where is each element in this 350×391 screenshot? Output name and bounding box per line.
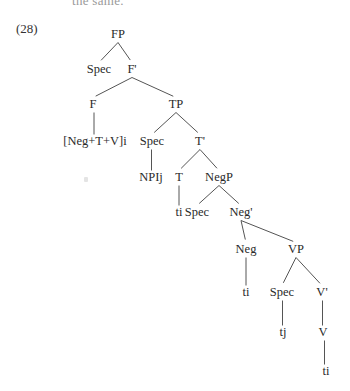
branch-Negbar-Neg bbox=[241, 221, 245, 240]
branch-Negbar-VP bbox=[241, 221, 293, 242]
node-TP: TP bbox=[169, 97, 184, 111]
tree-nodes: FPSpecF'FTP[Neg+T+V]iSpecT'NPIjTNegPtiSp… bbox=[63, 27, 330, 378]
node-V: V bbox=[318, 325, 327, 339]
node-NPIj: NPIj bbox=[139, 170, 163, 184]
branch-Fbar-F bbox=[96, 78, 132, 97]
node-Tbar: T' bbox=[195, 134, 205, 148]
branch-VP-Vbar bbox=[296, 258, 320, 284]
node-tj: tj bbox=[280, 325, 287, 339]
node-Spec1: Spec bbox=[87, 62, 112, 76]
node-NegTV: [Neg+T+V]i bbox=[63, 134, 127, 148]
branch-FP-Spec1 bbox=[101, 43, 118, 61]
node-Spec2: Spec bbox=[140, 134, 165, 148]
node-VP: VP bbox=[288, 242, 304, 256]
syntax-tree-diagram: FPSpecF'FTP[Neg+T+V]iSpecT'NPIjTNegPtiSp… bbox=[0, 0, 350, 391]
branch-Tbar-T bbox=[181, 150, 200, 169]
branch-NegP-Spec3 bbox=[199, 186, 219, 204]
node-T: T bbox=[175, 170, 183, 184]
branch-VP-Spec4 bbox=[283, 258, 296, 283]
node-FP: FP bbox=[111, 27, 125, 41]
node-ti3: ti bbox=[323, 364, 330, 378]
node-Fbar: F' bbox=[127, 62, 136, 76]
branch-TP-Tbar bbox=[176, 113, 198, 133]
node-Spec4: Spec bbox=[270, 285, 295, 299]
branch-TP-Spec2 bbox=[154, 113, 176, 133]
node-Neg: Neg bbox=[236, 242, 258, 256]
node-Negbar: Neg' bbox=[229, 205, 252, 219]
node-Spec3: Spec bbox=[185, 205, 210, 219]
node-ti2: ti bbox=[243, 285, 250, 299]
node-Vbar: V' bbox=[316, 285, 327, 299]
node-NegP: NegP bbox=[205, 170, 233, 184]
branch-FP-Fbar bbox=[118, 43, 130, 61]
branch-Fbar-TP bbox=[132, 78, 173, 97]
branch-NegP-Negbar bbox=[219, 186, 239, 204]
node-ti1: ti bbox=[176, 205, 183, 219]
tree-edges bbox=[94, 43, 325, 365]
branch-Tbar-NegP bbox=[200, 150, 217, 169]
node-F: F bbox=[90, 97, 97, 111]
